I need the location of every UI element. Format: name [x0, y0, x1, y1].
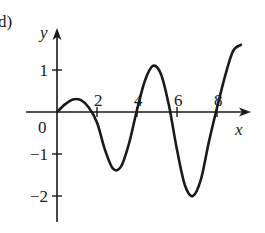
y-axis-label: y — [38, 23, 48, 42]
x-tick-label: 2 — [94, 91, 103, 110]
chart-canvas: d) y x 0 2468 1−1−2 — [0, 0, 265, 233]
y-tick-label: 1 — [40, 61, 49, 80]
x-axis-label: x — [234, 120, 243, 139]
x-ticks: 2468 — [94, 91, 223, 117]
data-curve — [57, 45, 241, 196]
origin-label: 0 — [38, 118, 47, 137]
y-tick-label: −2 — [30, 187, 48, 206]
x-tick-label: 6 — [174, 91, 183, 110]
y-tick-label: −1 — [30, 145, 48, 164]
y-axis — [53, 28, 62, 222]
panel-label: d) — [0, 12, 12, 31]
